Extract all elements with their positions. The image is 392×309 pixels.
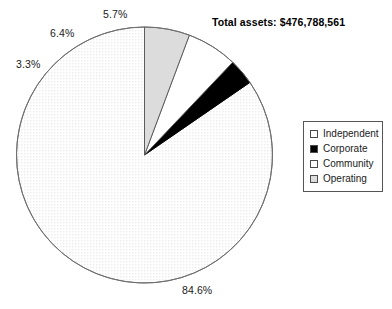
legend-item-independent[interactable]: Independent xyxy=(310,127,377,141)
slice-label-operating: 5.7% xyxy=(103,8,127,20)
legend-item-community[interactable]: Community xyxy=(310,157,377,171)
legend-label-operating: Operating xyxy=(323,173,367,185)
slice-label-community: 6.4% xyxy=(50,27,74,39)
chart-title: Total assets: $476,788,561 xyxy=(212,16,345,28)
legend-item-operating[interactable]: Operating xyxy=(310,172,377,186)
legend-swatch-community xyxy=(310,160,318,168)
legend-label-community: Community xyxy=(323,158,374,170)
pie-chart-figure: Total assets: $476,788,561 5.7% 6.4% 3.3… xyxy=(0,0,392,309)
legend-label-independent: Independent xyxy=(323,128,379,140)
legend-swatch-corporate xyxy=(310,145,318,153)
legend-item-corporate[interactable]: Corporate xyxy=(310,142,377,156)
legend-swatch-independent xyxy=(310,130,318,138)
slice-label-corporate: 3.3% xyxy=(16,58,40,70)
slice-label-independent: 84.6% xyxy=(182,284,212,296)
chart-legend: Independent Corporate Community Operatin… xyxy=(303,121,383,192)
legend-label-corporate: Corporate xyxy=(323,143,367,155)
legend-swatch-operating xyxy=(310,175,318,183)
